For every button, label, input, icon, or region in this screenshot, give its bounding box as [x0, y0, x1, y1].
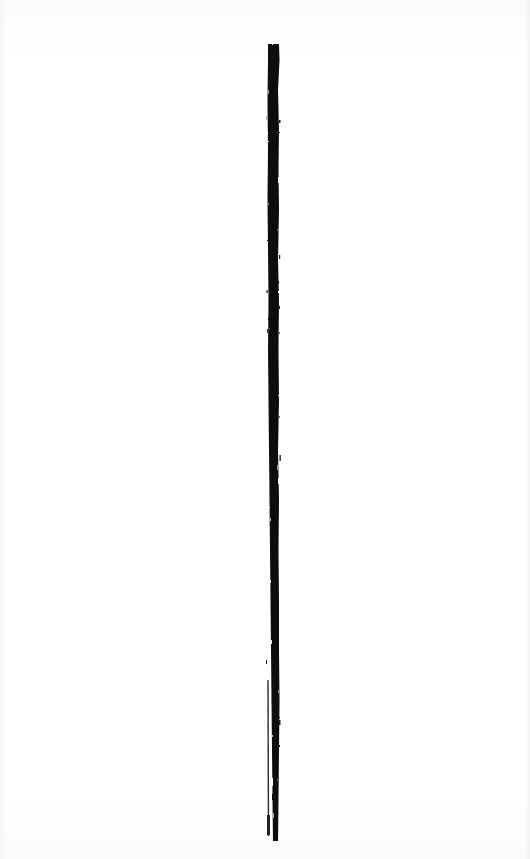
main-vertical-stroke [268, 44, 280, 841]
secondary-thin-stroke [268, 680, 269, 836]
vertical-stroke-drawing [0, 0, 530, 859]
lower-stroke-fragment [267, 815, 270, 835]
artwork-canvas [0, 0, 530, 859]
